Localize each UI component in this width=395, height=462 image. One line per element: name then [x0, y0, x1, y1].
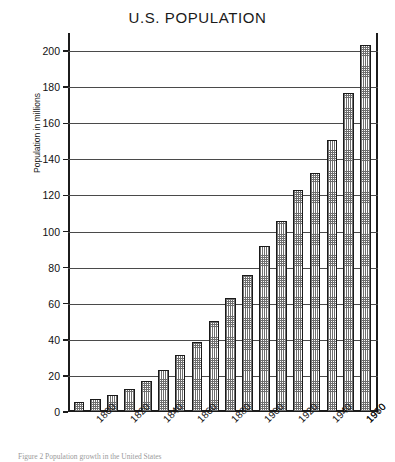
y-axis-tick-label: 0	[54, 406, 60, 418]
y-axis-line	[68, 33, 70, 412]
population-bar-chart: U.S. POPULATION Population in millions 0…	[0, 0, 395, 462]
bar	[74, 402, 85, 412]
figure-caption: Figure 2 Population growth in the United…	[18, 452, 358, 461]
y-axis-tick	[63, 50, 68, 51]
y-axis-tick	[63, 159, 68, 160]
bar	[360, 45, 371, 412]
plot-right-border	[376, 33, 378, 412]
bar	[293, 190, 304, 412]
y-axis-tick	[63, 267, 68, 268]
y-axis-tick	[63, 303, 68, 304]
bar	[242, 275, 253, 412]
bar	[276, 221, 287, 412]
y-axis-tick	[63, 86, 68, 87]
chart-title: U.S. POPULATION	[0, 9, 395, 26]
bar	[209, 321, 220, 412]
y-axis-tick-label: 200	[42, 45, 60, 57]
y-axis-tick-label: 120	[42, 189, 60, 201]
gridline	[68, 51, 378, 52]
y-axis-tick-label: 40	[48, 334, 60, 346]
y-axis-tick	[63, 123, 68, 124]
y-axis-tick-label: 60	[48, 298, 60, 310]
y-axis-tick	[63, 411, 68, 412]
bar	[192, 342, 203, 412]
gridline	[68, 123, 378, 124]
bar	[310, 173, 321, 412]
bar	[327, 140, 338, 412]
y-axis-tick-label: 140	[42, 153, 60, 165]
y-axis-tick	[63, 339, 68, 340]
bar	[124, 389, 135, 412]
plot-area: 020406080100120140160180200	[68, 33, 378, 412]
y-axis-tick-label: 80	[48, 262, 60, 274]
y-axis-tick-label: 160	[42, 117, 60, 129]
y-axis-tick-label: 100	[42, 226, 60, 238]
y-axis-tick	[63, 231, 68, 232]
y-axis-title: Population in millions	[32, 53, 42, 213]
y-axis-tick-label: 180	[42, 81, 60, 93]
y-axis-tick-label: 20	[48, 370, 60, 382]
gridline	[68, 87, 378, 88]
bar	[225, 298, 236, 412]
y-axis-tick	[63, 375, 68, 376]
bar	[259, 246, 270, 412]
bar	[158, 370, 169, 412]
y-axis-tick	[63, 195, 68, 196]
bar	[343, 93, 354, 412]
